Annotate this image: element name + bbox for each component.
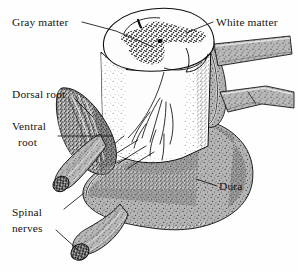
label-spinal-nerves-line2: nerves	[12, 222, 43, 234]
label-gray-matter: Gray matter	[12, 16, 68, 28]
label-ventral-root-line2: root	[18, 136, 38, 148]
spinal-cord-diagram: Gray matter White matter Dorsal root Ven…	[0, 0, 298, 272]
diagram-canvas: Gray matter White matter Dorsal root Ven…	[0, 0, 298, 272]
label-dura: Dura	[219, 180, 242, 192]
central-canal	[157, 39, 162, 43]
label-dorsal-root: Dorsal root	[12, 88, 66, 100]
label-spinal-nerves-line1: Spinal	[12, 206, 42, 218]
label-ventral-root-line1: Ventral	[12, 120, 46, 132]
label-white-matter: White matter	[216, 16, 278, 28]
